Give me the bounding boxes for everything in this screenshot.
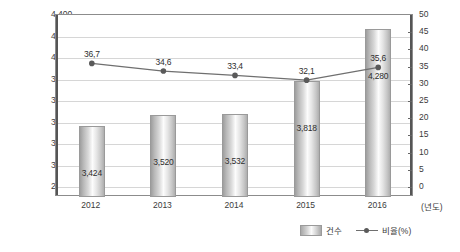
legend-label-count: 건수 [326, 224, 342, 236]
right-axis-tick-label: 50 [419, 10, 428, 19]
right-axis-tick-label: 40 [419, 44, 428, 53]
ratio-point-label: 34,6 [156, 57, 172, 67]
x-axis-title: (년도) [421, 200, 443, 212]
x-axis-label-2013: 2013 [153, 200, 172, 210]
legend-item-ratio: 비율(%) [356, 224, 411, 236]
right-axis-tick-label: 10 [419, 148, 428, 157]
ratio-marker [375, 65, 381, 71]
ratio-marker [304, 77, 310, 83]
ratio-line-series [56, 15, 414, 197]
right-axis-tick-label: 15 [419, 130, 428, 139]
legend-item-count: 건수 [300, 224, 342, 236]
ratio-point-label: 35,6 [370, 53, 386, 63]
chart-legend: 건수 비율(%) [300, 224, 411, 236]
right-axis-tick-label: 0 [419, 182, 424, 191]
x-axis-label-2016: 2016 [368, 200, 387, 210]
x-axis-label-2012: 2012 [81, 200, 100, 210]
right-axis-tick-label: 35 [419, 62, 428, 71]
bar-swatch-icon [300, 225, 322, 236]
right-axis-tick-label: 20 [419, 113, 428, 122]
right-axis-tick-label: 25 [419, 96, 428, 105]
legend-label-ratio: 비율(%) [382, 224, 411, 236]
combo-chart: 4,400 4,200 4,000 3,800 3,600 3,400 3,20… [0, 0, 460, 252]
ratio-point-label: 32,1 [299, 66, 315, 76]
x-axis-label-2014: 2014 [225, 200, 244, 210]
x-axis-label-2015: 2015 [296, 200, 315, 210]
ratio-point-label: 33,4 [227, 61, 243, 71]
line-marker-icon [356, 226, 378, 235]
ratio-marker [161, 68, 167, 74]
plot-area: 3,424 3,520 3,532 3,818 4,280 36,7 34,6 … [55, 14, 413, 196]
right-axis-tick-label: 30 [419, 79, 428, 88]
ratio-marker [89, 61, 95, 67]
ratio-point-label: 36,7 [84, 49, 100, 59]
right-axis-tick-label: 5 [419, 165, 424, 174]
right-axis-tick-label: 45 [419, 27, 428, 36]
ratio-marker [232, 73, 238, 79]
